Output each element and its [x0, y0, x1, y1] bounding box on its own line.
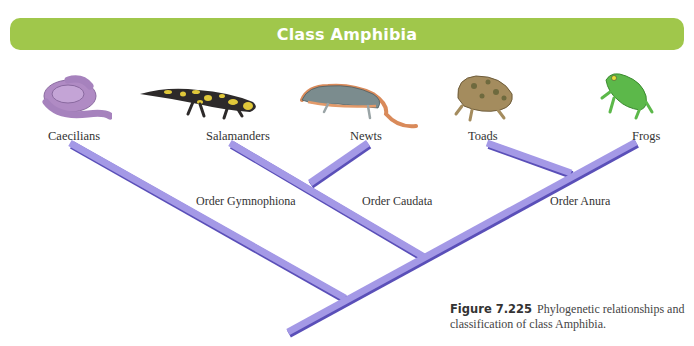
branch-caecilians: [70, 143, 345, 298]
branch-toads: [487, 143, 571, 173]
figure-caption: Figure 7.225Phylogenetic relationships a…: [450, 302, 690, 332]
taxon-label-salamanders: Salamanders: [206, 129, 270, 144]
branch-newts: [310, 143, 368, 183]
figure-number: Figure 7.225: [450, 302, 532, 316]
order-label-caudata: Order Caudata: [362, 194, 432, 209]
order-label-anura: Order Anura: [550, 194, 610, 209]
phylogenetic-tree: [0, 0, 694, 346]
taxon-label-frogs: Frogs: [632, 129, 660, 144]
taxon-label-newts: Newts: [350, 129, 382, 144]
taxon-label-caecilians: Caecilians: [48, 129, 100, 144]
order-label-gymnophiona: Order Gymnophiona: [196, 194, 296, 209]
taxon-label-toads: Toads: [468, 129, 498, 144]
